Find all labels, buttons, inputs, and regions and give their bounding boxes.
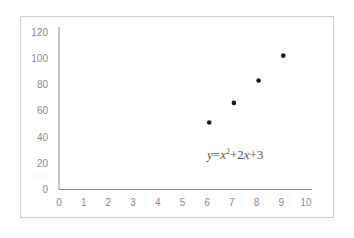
data-point (232, 101, 237, 106)
y-tick-label: 120 (31, 27, 48, 38)
data-point (207, 120, 212, 125)
equation-label: y=x2+2x+3 (205, 147, 263, 162)
x-tick-label: 8 (254, 197, 260, 208)
y-tick-label: 40 (37, 132, 49, 143)
y-tick-labels: 020406080100120 (31, 27, 48, 196)
y-tick-label: 60 (37, 105, 49, 116)
y-tick-label: 100 (31, 53, 48, 64)
x-tick-label: 3 (130, 197, 136, 208)
x-tick-label: 5 (180, 197, 186, 208)
y-tick-label: 0 (42, 184, 48, 195)
x-tick-label: 1 (81, 197, 87, 208)
x-tick-label: 9 (279, 197, 285, 208)
data-points (207, 53, 286, 125)
x-tick-label: 4 (155, 197, 161, 208)
axes (59, 27, 312, 190)
data-point (256, 78, 261, 83)
scatter-chart: 020406080100120 012345678910 y=x2+2x+3 (0, 0, 354, 238)
y-tick-label: 20 (37, 158, 49, 169)
x-tick-labels: 012345678910 (56, 197, 312, 208)
x-tick-label: 6 (204, 197, 210, 208)
y-tick-label: 80 (37, 79, 49, 90)
data-point (281, 53, 286, 58)
x-tick-label: 10 (300, 197, 312, 208)
x-tick-label: 2 (106, 197, 112, 208)
x-tick-label: 0 (56, 197, 62, 208)
x-tick-label: 7 (229, 197, 235, 208)
